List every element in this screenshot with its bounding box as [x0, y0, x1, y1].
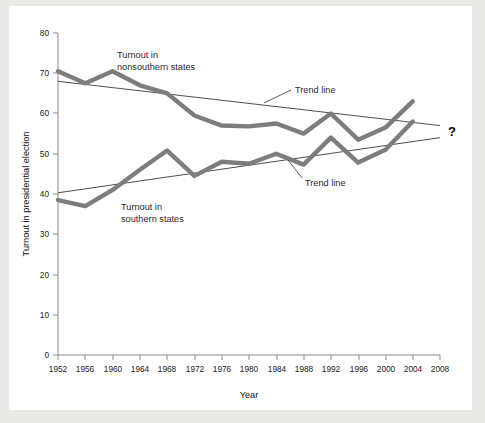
- y-tick-label-60: 60: [40, 108, 50, 118]
- y-tick-label-40: 40: [40, 189, 50, 199]
- x-tick-label-1996: 1996: [350, 364, 369, 374]
- trend-lower-label: Trend line: [305, 178, 346, 188]
- southern-label-line2: southern states: [121, 214, 184, 224]
- trend-lines-group: [58, 81, 440, 192]
- x-tick-label-1992: 1992: [322, 364, 341, 374]
- x-tick-label-2004: 2004: [404, 364, 423, 374]
- turnout-line-chart: 80 70 60 50 40 30 20 10 0 Turnout in pre…: [9, 6, 472, 410]
- x-axis-title: Year: [240, 390, 259, 400]
- series-line-nonsouthern: [58, 71, 413, 139]
- future-question-mark: ?: [448, 124, 456, 139]
- series-line-southern: [58, 122, 413, 207]
- x-tick-label-1964: 1964: [131, 364, 150, 374]
- y-axis-title: Turnout in presidential election: [21, 132, 31, 257]
- nonsouthern-label-line1: Turnout in: [117, 50, 158, 60]
- x-tick-label-1972: 1972: [186, 364, 205, 374]
- y-tick-label-50: 50: [40, 149, 50, 159]
- y-axis: 80 70 60 50 40 30 20 10 0 Turnout in pre…: [21, 28, 58, 360]
- y-tick-label-20: 20: [40, 270, 50, 280]
- x-tick-label-1988: 1988: [295, 364, 314, 374]
- y-tick-label-80: 80: [40, 28, 50, 38]
- y-tick-label-70: 70: [40, 68, 50, 78]
- x-tick-label-1984: 1984: [268, 364, 287, 374]
- southern-label-line1: Turnout in: [121, 202, 162, 212]
- y-tick-label-0: 0: [44, 350, 49, 360]
- x-tick-label-1968: 1968: [158, 364, 177, 374]
- trend-line-nonsouthern: [58, 81, 440, 125]
- nonsouthern-label-line2: nonsouthern states: [117, 62, 196, 72]
- x-tick-label-1956: 1956: [76, 364, 95, 374]
- annotations-group: Turnout in nonsouthern states Turnout in…: [117, 50, 456, 224]
- data-series-group: [58, 71, 413, 206]
- x-tick-label-1952: 1952: [49, 364, 68, 374]
- x-tick-label-1960: 1960: [104, 364, 123, 374]
- trend-upper-leader: [264, 90, 291, 103]
- x-tick-label-1980: 1980: [240, 364, 259, 374]
- y-tick-label-10: 10: [40, 310, 50, 320]
- chart-figure: 80 70 60 50 40 30 20 10 0 Turnout in pre…: [9, 6, 472, 410]
- x-tick-label-2000: 2000: [377, 364, 396, 374]
- y-tick-label-30: 30: [40, 229, 50, 239]
- x-tick-label-1976: 1976: [213, 364, 232, 374]
- trend-upper-label: Trend line: [295, 85, 336, 95]
- x-tick-label-2008: 2008: [431, 364, 450, 374]
- x-axis: 1952 1956 1960 1964 1968 1972 1976 1980 …: [49, 355, 450, 400]
